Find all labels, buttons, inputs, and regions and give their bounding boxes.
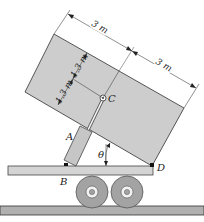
dim-top-1: 3 m — [90, 18, 110, 35]
label-a: A — [65, 131, 73, 142]
label-b: B — [59, 176, 67, 187]
theta-label: θ — [98, 149, 104, 160]
ground — [0, 206, 204, 215]
label-d: D — [156, 162, 165, 173]
pin-d — [150, 163, 154, 167]
extension-line-left — [54, 10, 70, 34]
extension-line-right — [184, 84, 199, 108]
wheel-right — [111, 176, 143, 208]
wheel-left — [76, 176, 108, 208]
dim-top-2: 3 m — [154, 56, 174, 73]
truck-platform — [8, 166, 153, 175]
truck-diagram: 3 m 3 m 1.3 m 1.3 m θ A B C D — [0, 0, 204, 222]
label-c: C — [108, 93, 116, 104]
pin-b — [64, 163, 68, 166]
